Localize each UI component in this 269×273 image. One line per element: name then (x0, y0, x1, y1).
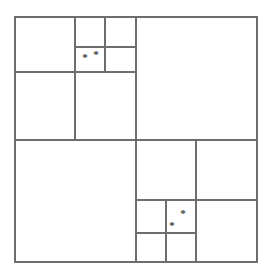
point-markers: * * * * (82, 48, 186, 231)
quadtree-diagram: * * * * (0, 0, 269, 273)
marker-upper-left-a: * (82, 51, 88, 63)
subdivision-lines (15, 17, 257, 262)
marker-upper-left-b: * (93, 48, 99, 60)
quadtree-canvas: * * * * (0, 0, 269, 273)
marker-lower-right-a: * (180, 207, 186, 219)
marker-lower-right-b: * (169, 219, 175, 231)
